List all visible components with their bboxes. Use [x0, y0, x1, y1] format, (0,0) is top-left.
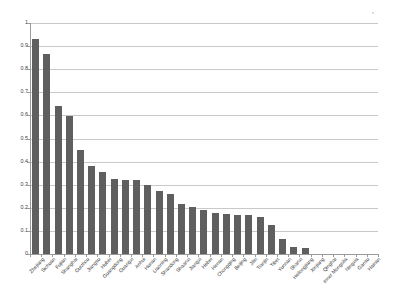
bar-hebei [200, 210, 207, 254]
bar-shanxi [290, 247, 297, 254]
y-tick-label: 0.6 [2, 113, 28, 118]
bar-beijing [234, 215, 241, 255]
bar-slot [187, 23, 198, 254]
bar-shanghai [66, 116, 73, 254]
bar-slot [52, 23, 63, 254]
bar-sichuan [43, 54, 50, 254]
y-tick-label: 0.7 [2, 90, 28, 95]
bar-slot [277, 23, 288, 254]
bar-zhejiang [32, 39, 39, 254]
bar-slot [232, 23, 243, 254]
bar-slot [311, 23, 322, 254]
bar-tibet [268, 225, 275, 254]
y-tick-label: 0.5 [2, 136, 28, 141]
bar-tianjin [257, 217, 264, 254]
y-tick-label: 0 [2, 251, 28, 256]
bar-hubei [99, 172, 106, 254]
bar-slot [120, 23, 131, 254]
bar-slot [176, 23, 187, 254]
bar-fujian [55, 106, 62, 254]
y-tick-label: 0.3 [2, 182, 28, 187]
bar-series [30, 23, 378, 254]
bar-slot [266, 23, 277, 254]
bar-slot [153, 23, 164, 254]
y-tick-label: 0.4 [2, 159, 28, 164]
bar-henan [212, 213, 219, 254]
stray-mark [372, 12, 374, 14]
bar-slot [221, 23, 232, 254]
bar-slot [333, 23, 344, 254]
bar-slot [109, 23, 120, 254]
bar-slot [344, 23, 355, 254]
bar-slot [243, 23, 254, 254]
bar-slot [288, 23, 299, 254]
y-tick-label: 0.1 [2, 228, 28, 233]
bar-slot [64, 23, 75, 254]
bar-slot [210, 23, 221, 254]
bar-chart: 10.90.80.70.60.50.40.30.20.10 ZhejiangSi… [0, 0, 399, 307]
y-tick-label: 0.2 [2, 205, 28, 210]
bar-slot [75, 23, 86, 254]
bar-yunnan [279, 239, 286, 254]
y-tick-label: 0.8 [2, 66, 28, 71]
y-tick-label: 0.9 [2, 43, 28, 48]
bar-slot [30, 23, 41, 254]
bar-guizhou [77, 150, 84, 254]
bar-chongqing [223, 214, 230, 254]
bar-slot [86, 23, 97, 254]
bar-shaanxi [178, 204, 185, 254]
bar-jiangxi [189, 207, 196, 254]
bar-jilin [245, 215, 252, 254]
bar-slot [131, 23, 142, 254]
bar-jiangsu [88, 166, 95, 254]
bar-guangxi [122, 180, 129, 254]
bar-shandong [167, 194, 174, 254]
bar-slot [142, 23, 153, 254]
bar-liaoning [156, 191, 163, 254]
bar-slot [165, 23, 176, 254]
bar-slot [367, 23, 378, 254]
bar-slot [299, 23, 310, 254]
bar-slot [198, 23, 209, 254]
x-axis-labels: ZhejiangSichuanFujianShanghaiGuizhouJian… [30, 256, 378, 307]
bar-slot [97, 23, 108, 254]
y-axis: 10.90.80.70.60.50.40.30.20.10 [0, 0, 28, 307]
bar-hunan [144, 185, 151, 254]
bar-slot [255, 23, 266, 254]
bar-slot [41, 23, 52, 254]
bar-guangdong [111, 179, 118, 254]
bar-anhui [133, 180, 140, 254]
bar-slot [322, 23, 333, 254]
bar-slot [356, 23, 367, 254]
y-tick-label: 1 [2, 20, 28, 25]
